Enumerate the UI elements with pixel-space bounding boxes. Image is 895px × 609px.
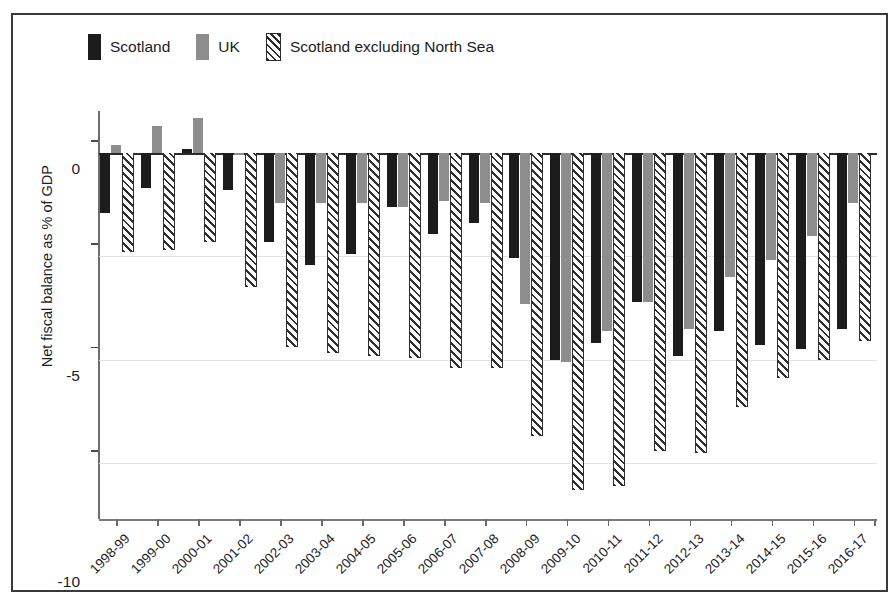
bar-scotland-excluding-north-sea xyxy=(818,153,830,360)
bar-group xyxy=(223,119,256,511)
bar-scotland xyxy=(141,153,151,188)
bar-scotland xyxy=(673,153,683,356)
bar-scotland-excluding-north-sea xyxy=(572,153,584,490)
bar-scotland xyxy=(837,153,847,329)
x-axis-tick xyxy=(321,519,323,526)
bar-uk xyxy=(439,153,449,201)
bar-group xyxy=(837,119,870,511)
x-axis-tick xyxy=(649,519,651,526)
bar-scotland xyxy=(550,153,560,360)
bar-group xyxy=(100,119,133,511)
bar-uk xyxy=(480,153,490,203)
bar-scotland-excluding-north-sea xyxy=(122,153,134,252)
x-axis-tick xyxy=(444,519,446,526)
legend-swatch-icon xyxy=(266,33,281,61)
bar-scotland-excluding-north-sea xyxy=(491,153,503,368)
x-axis-tick xyxy=(403,519,405,526)
legend-swatch-icon xyxy=(88,34,101,60)
bar-scotland xyxy=(428,153,438,234)
bar-scotland xyxy=(305,153,315,265)
x-axis-tick-label: 2006-07 xyxy=(415,531,461,577)
legend-label: Scotland excluding North Sea xyxy=(290,38,494,56)
bar-group xyxy=(755,119,788,511)
bar-scotland xyxy=(591,153,601,343)
bar-scotland-excluding-north-sea xyxy=(695,153,707,453)
bar-scotland-excluding-north-sea xyxy=(859,153,871,341)
bar-uk xyxy=(520,153,530,304)
x-axis-tick xyxy=(280,519,282,526)
x-axis-tick-label: 2005-06 xyxy=(374,531,420,577)
bar-scotland-excluding-north-sea xyxy=(450,153,462,368)
bar-group xyxy=(714,119,747,511)
bar-group xyxy=(509,119,542,511)
bar-scotland-excluding-north-sea xyxy=(531,153,543,436)
bar-scotland-excluding-north-sea xyxy=(368,153,380,356)
bar-uk xyxy=(275,153,285,203)
bar-scotland xyxy=(509,153,519,258)
bar-scotland-excluding-north-sea xyxy=(204,153,216,242)
bar-scotland xyxy=(100,153,110,213)
bar-scotland-excluding-north-sea xyxy=(327,153,339,353)
y-axis-tick: 0 xyxy=(91,140,98,142)
bar-scotland-excluding-north-sea xyxy=(409,153,421,358)
x-axis-tick-label: 2014-15 xyxy=(743,531,789,577)
bar-uk xyxy=(848,153,858,203)
legend-swatch-icon xyxy=(196,34,209,60)
bar-scotland-excluding-north-sea xyxy=(163,153,175,250)
bar-uk xyxy=(111,145,121,153)
bar-scotland xyxy=(182,149,192,153)
bar-scotland xyxy=(714,153,724,331)
y-axis-tick: -5 xyxy=(91,243,98,245)
bar-group xyxy=(469,119,502,511)
bar-scotland-excluding-north-sea xyxy=(286,153,298,347)
bar-uk xyxy=(193,118,203,153)
plot-area xyxy=(99,119,877,511)
bar-scotland xyxy=(223,153,233,190)
x-axis-tick-label: 2009-10 xyxy=(538,531,584,577)
y-axis-tick-label: 0 xyxy=(71,160,80,178)
bar-group xyxy=(346,119,379,511)
bar-group xyxy=(182,119,215,511)
bar-scotland-excluding-north-sea xyxy=(613,153,625,486)
bar-uk xyxy=(766,153,776,260)
x-axis-tick-label: 2016-17 xyxy=(824,531,870,577)
bar-group xyxy=(428,119,461,511)
bar-uk xyxy=(684,153,694,329)
bar-uk xyxy=(643,153,653,302)
x-axis-tick-label: 2011-12 xyxy=(620,531,665,576)
bar-scotland xyxy=(264,153,274,242)
bar-uk xyxy=(807,153,817,236)
bar-uk xyxy=(725,153,735,277)
bar-scotland xyxy=(632,153,642,302)
x-axis-tick xyxy=(854,519,856,526)
bar-group xyxy=(141,119,174,511)
bar-scotland xyxy=(796,153,806,349)
y-axis-tick-label: -10 xyxy=(58,573,80,591)
bar-scotland-excluding-north-sea xyxy=(245,153,257,287)
x-axis-tick-label: 2015-16 xyxy=(784,531,830,577)
x-axis-tick xyxy=(874,519,876,526)
x-axis-tick xyxy=(157,519,159,526)
x-axis-tick-label: 1999-00 xyxy=(128,531,174,577)
chart-legend: ScotlandUKScotland excluding North Sea xyxy=(88,33,520,61)
bar-group xyxy=(796,119,829,511)
bar-uk xyxy=(316,153,326,203)
x-axis-tick-label: 2002-03 xyxy=(251,531,297,577)
x-axis-tick xyxy=(116,519,118,526)
x-axis-tick xyxy=(690,519,692,526)
bar-group xyxy=(305,119,338,511)
bar-uk xyxy=(357,153,367,203)
bar-group xyxy=(632,119,665,511)
y-axis-tick-label: -5 xyxy=(66,367,80,385)
bar-scotland-excluding-north-sea xyxy=(777,153,789,378)
bar-group xyxy=(387,119,420,511)
x-axis-tick-label: 2010-11 xyxy=(580,531,625,576)
bar-uk xyxy=(561,153,571,362)
x-axis-tick xyxy=(239,519,241,526)
legend-item: Scotland excluding North Sea xyxy=(266,33,494,61)
bar-uk xyxy=(234,153,244,155)
x-axis-tick-label: 2001-02 xyxy=(210,531,256,577)
x-axis-tick xyxy=(567,519,569,526)
bar-uk xyxy=(152,126,162,153)
x-axis-tick-label: 2004-05 xyxy=(333,531,379,577)
